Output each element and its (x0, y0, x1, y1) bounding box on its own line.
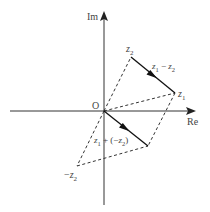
dashed-z1-to-diff (148, 93, 175, 146)
complex-plane-diagram: Im Re O z2 z1 −z2 z1 − z2 z1 + (−z2) (0, 0, 210, 212)
dashed-neg-z2-to-diff (77, 146, 148, 166)
dashed-o-to-z1 (104, 93, 175, 111)
origin-label: O (92, 100, 99, 111)
point-label-neg-z2: −z2 (64, 169, 78, 183)
dashed-o-to-z2 (104, 57, 131, 111)
axis-label-im: Im (87, 11, 98, 22)
point-label-z2: z2 (125, 43, 134, 57)
point-label-z1: z1 (177, 88, 186, 102)
axis-label-re: Re (187, 116, 199, 127)
vector-label-difference: z1 − z2 (151, 61, 175, 73)
axes (10, 11, 196, 205)
vector-label-sum-with-negative: z1 + (−z2) (93, 135, 128, 147)
